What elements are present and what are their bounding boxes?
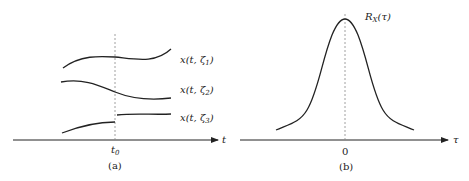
sample-path-3-left — [62, 122, 115, 133]
tau-axis-label: τ — [453, 134, 459, 145]
t0-tick-label: t0 — [111, 144, 120, 157]
curve-label-1: x(t, ζ1) — [180, 54, 214, 67]
zero-tick-label: 0 — [342, 146, 348, 157]
curve-label-2: x(t, ζ2) — [180, 84, 214, 97]
autocorrelation-label: RX(τ) — [364, 11, 391, 24]
panel-a: t t0 x(t, ζ1) x(t, ζ2) x(t, ζ3) (a) — [13, 34, 227, 171]
curve-label-3: x(t, ζ3) — [180, 112, 214, 125]
panel-b: τ RX(τ) 0 (b) — [240, 11, 459, 172]
sample-path-2 — [61, 81, 171, 99]
panel-a-caption: (a) — [108, 160, 122, 171]
sample-path-1 — [63, 49, 171, 68]
diagram-canvas: t t0 x(t, ζ1) x(t, ζ2) x(t, ζ3) (a) τ RX… — [0, 0, 469, 181]
sample-path-3-right — [117, 114, 171, 115]
panel-b-caption: (b) — [339, 161, 353, 172]
t-axis-label: t — [222, 134, 227, 145]
